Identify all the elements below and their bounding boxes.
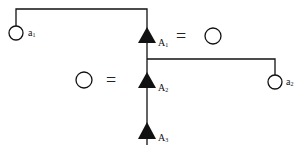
node-A1-triangle (138, 27, 156, 43)
line-branch-to-a2 (147, 59, 275, 75)
equals-sign-A1: = (176, 27, 186, 45)
node-A2-triangle (138, 72, 156, 88)
diagram-canvas (0, 0, 307, 154)
node-A3-triangle (138, 122, 156, 139)
label-a1: a1 (28, 28, 35, 38)
label-A3: A3 (158, 133, 168, 143)
label-A2: A2 (158, 83, 168, 93)
node-a1-circle (9, 26, 23, 40)
equiv-circle-A2 (76, 72, 92, 88)
label-A1: A1 (158, 38, 168, 48)
equiv-circle-A1 (205, 28, 221, 44)
label-a2: a2 (286, 77, 293, 87)
node-a2-circle (268, 75, 282, 89)
equals-sign-A2: = (106, 71, 116, 89)
